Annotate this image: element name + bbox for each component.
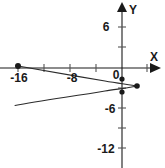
- y-tick-label-6: 6: [103, 20, 110, 34]
- y-tick-label-0: 0: [113, 68, 120, 82]
- point-x-intercept: [15, 63, 21, 69]
- y-axis-label: Y: [129, 3, 137, 17]
- coordinate-plane-svg: Y X 6 0 -6 -12 -16 -8: [0, 0, 165, 168]
- graph-figure: Y X 6 0 -6 -12 -16 -8: [0, 0, 165, 168]
- y-tick-label-neg6: -6: [105, 102, 116, 116]
- y-tick-label-neg12: -12: [97, 142, 115, 156]
- x-tick-label-neg8: -8: [67, 71, 78, 85]
- y-axis-arrowhead: [117, 2, 127, 12]
- x-axis-arrowhead: [150, 63, 161, 73]
- point-y-intercept-upper: [119, 76, 124, 81]
- x-axis-label: X: [150, 50, 158, 64]
- point-vertex: [134, 83, 140, 89]
- x-tick-label-neg16: -16: [10, 71, 28, 85]
- point-y-intercept-lower: [119, 89, 124, 94]
- parabola-lower-branch: [15, 86, 137, 106]
